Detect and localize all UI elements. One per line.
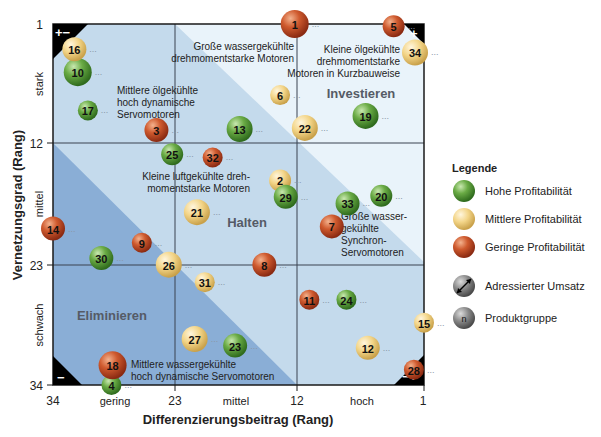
y-cat-schwach: schwach <box>33 304 45 347</box>
x-cat-gering: gering <box>100 395 131 407</box>
bubble-number: 30 <box>95 253 107 265</box>
x-axis-title: Differenzierungsbeitrag (Rang) <box>143 412 334 427</box>
ellipsis-marker: ... <box>89 44 97 54</box>
x-tick-12: 12 <box>290 394 304 408</box>
ellipsis-marker: ... <box>321 123 329 133</box>
zone-label-eliminate: Eliminieren <box>77 308 147 323</box>
x-cat-mittel: mittel <box>223 395 249 407</box>
x-axis: 34 23 12 1 gering mittel hoch Differenzi… <box>46 385 426 427</box>
ellipsis-marker: ... <box>395 191 403 201</box>
y-cat-stark: stark <box>33 72 45 96</box>
ellipsis-marker: ... <box>437 318 445 328</box>
bubble-number: 29 <box>280 192 292 204</box>
annot-line: hoch dynamische <box>117 97 195 108</box>
annot-line: Mittlere ölgekühlte <box>117 85 199 96</box>
legend: Legende Hohe Profitabilität Mittlere Pro… <box>452 162 585 329</box>
y-tick-34: 34 <box>30 379 44 393</box>
ellipsis-marker: ... <box>68 224 76 234</box>
bubble-number: 19 <box>359 111 371 123</box>
y-tick-12: 12 <box>30 137 44 151</box>
bubble-number: 17 <box>82 105 94 117</box>
bubble-number: 8 <box>261 260 267 272</box>
ellipsis-marker: ... <box>171 125 179 135</box>
legend-label: Hohe Profitabilität <box>485 185 572 197</box>
annot-line: drehmomentstarke <box>317 56 401 67</box>
bubble-number: 32 <box>207 152 219 164</box>
legend-item-low: Geringe Profitabilität <box>453 236 585 258</box>
bubble-number: 15 <box>418 318 430 330</box>
ellipsis-marker: ... <box>293 90 301 100</box>
ellipsis-marker: ... <box>363 198 371 208</box>
bubble-number: 18 <box>106 360 118 372</box>
bubble-number: 12 <box>362 343 374 355</box>
annot-line: Große wassergekühlte <box>193 41 294 52</box>
bubble-product-group-34: ...34 <box>402 39 439 65</box>
annot-line: momentstarke Motoren <box>147 183 250 194</box>
ellipsis-marker: ... <box>431 47 439 57</box>
ellipsis-marker: ... <box>130 360 138 370</box>
ellipsis-marker: ... <box>347 221 355 231</box>
bubble-number: 28 <box>408 365 420 377</box>
ellipsis-marker: ... <box>408 21 416 31</box>
bubble-number: 10 <box>72 67 84 79</box>
ellipsis-marker: ... <box>226 152 234 162</box>
legend-item-product-group: n Produktgruppe <box>453 307 557 329</box>
y-cat-mittel: mittel <box>33 191 45 217</box>
legend-item-medium: Mittlere Profitabilität <box>453 208 582 230</box>
legend-label: Adressierter Umsatz <box>485 280 585 292</box>
bubble-number: 14 <box>47 224 60 236</box>
annot-line: Servomotoren <box>341 247 404 258</box>
bubble-number: 27 <box>189 334 201 346</box>
ellipsis-marker: ... <box>186 149 194 159</box>
annot-line: Kleine luftgekühlte dreh- <box>142 171 250 182</box>
ellipsis-marker: ... <box>101 105 109 115</box>
legend-item-high: Hohe Profitabilität <box>453 180 572 202</box>
bubble-number: 13 <box>233 124 245 136</box>
bubble-number: 4 <box>108 380 115 392</box>
annot-line: Mittlere wassergekühlte <box>131 359 236 370</box>
zone-label-hold: Halten <box>227 215 267 230</box>
ellipsis-marker: ... <box>211 334 219 344</box>
ellipsis-marker: ... <box>185 260 193 270</box>
legend-label: Geringe Profitabilität <box>485 241 585 253</box>
green-bubble-icon <box>453 180 475 202</box>
x-cat-hoch: hoch <box>350 395 374 407</box>
bubble-number: 5 <box>391 21 397 33</box>
bubble-number: 21 <box>191 207 203 219</box>
bubble-number: 7 <box>329 221 335 233</box>
portfolio-chart: +− + − −+ 1 12 23 34 stark mittel schwac… <box>0 0 601 437</box>
annot-line: drehmomentstarke Motoren <box>171 53 294 64</box>
red-bubble-icon <box>453 236 475 258</box>
y-tick-1: 1 <box>36 18 43 32</box>
ellipsis-marker: ... <box>359 295 367 305</box>
ellipsis-marker: ... <box>279 260 287 270</box>
bubble-product-group-15: ...15 <box>414 313 445 333</box>
ellipsis-marker: ... <box>294 175 302 185</box>
x-tick-23: 23 <box>168 394 182 408</box>
ellipsis-marker: ... <box>218 277 226 287</box>
bubble-product-group-28: ...28 <box>404 360 435 380</box>
bubble-number: 26 <box>163 260 175 272</box>
annot-line: Servomotoren <box>117 109 180 120</box>
ellipsis-marker: ... <box>301 192 309 202</box>
n-symbol: n <box>461 314 466 324</box>
bubble-number: 31 <box>199 277 211 289</box>
ellipsis-marker: ... <box>95 67 103 77</box>
corner-bl-label: − <box>57 370 65 385</box>
bubble-number: 3 <box>153 125 159 137</box>
ellipsis-marker: ... <box>256 124 264 134</box>
ellipsis-marker: ... <box>312 19 320 29</box>
bubble-number: 9 <box>139 238 145 250</box>
bubble-number: 23 <box>229 341 241 353</box>
ellipsis-marker: ... <box>124 380 132 390</box>
x-tick-34: 34 <box>46 394 60 408</box>
ellipsis-marker: ... <box>382 111 390 121</box>
legend-item-revenue: Adressierter Umsatz <box>453 275 585 297</box>
legend-label: Produktgruppe <box>485 312 557 324</box>
zone-label-invest: Investieren <box>327 86 396 101</box>
ellipsis-marker: ... <box>213 207 221 217</box>
ellipsis-marker: ... <box>322 295 330 305</box>
ellipsis-marker: ... <box>250 341 258 351</box>
annot-line: Kleine ölgekühlte <box>324 44 401 55</box>
annot-line: Motoren in Kurzbauweise <box>287 68 400 79</box>
